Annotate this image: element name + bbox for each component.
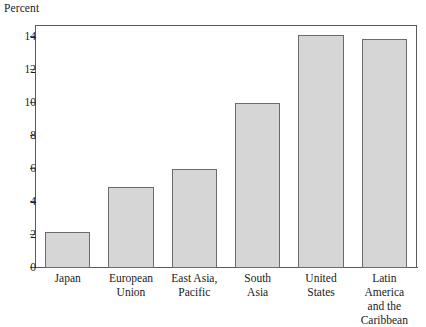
x-axis-category-label-line: Latin: [353, 271, 416, 285]
y-axis-tick-label: 8: [10, 129, 36, 141]
x-axis-category-label: East Asia,Pacific: [163, 271, 226, 299]
bar: [362, 39, 408, 268]
y-axis-title: Percent: [4, 2, 39, 15]
y-axis-tick-label: 10: [10, 96, 36, 108]
y-axis-tick: 4: [0, 201, 36, 202]
y-axis-tick-label: 4: [10, 195, 36, 207]
x-axis-category-label-line: East Asia,: [163, 271, 226, 285]
bar: [235, 103, 281, 268]
y-axis-tick: 8: [0, 135, 36, 136]
y-axis-tick: 0: [0, 267, 36, 268]
x-axis-category-label: LatinAmericaand theCaribbean: [353, 271, 416, 327]
bars-group: [36, 26, 416, 268]
x-axis-category-label-line: Union: [99, 285, 162, 299]
x-axis-category-label-line: South: [226, 271, 289, 285]
y-axis-tick: 12: [0, 69, 36, 70]
bar: [298, 35, 344, 268]
x-axis-category-label-line: and the: [353, 299, 416, 313]
x-axis-category-label-line: States: [289, 285, 352, 299]
x-axis-category-label: Japan: [36, 271, 99, 285]
y-axis-tick: 10: [0, 102, 36, 103]
x-axis-category-label: EuropeanUnion: [99, 271, 162, 299]
y-axis-tick-label: 14: [10, 30, 36, 42]
y-axis-tick: 14: [0, 36, 36, 37]
bar: [45, 232, 91, 268]
x-axis-category-labels: JapanEuropeanUnionEast Asia,PacificSouth…: [36, 271, 416, 321]
x-axis-category-label-line: Caribbean: [353, 313, 416, 327]
x-axis-category-label-line: America: [353, 285, 416, 299]
y-axis-tick-label: 12: [10, 63, 36, 75]
y-axis-tick-label: 0: [10, 262, 36, 274]
y-axis-tick: 2: [0, 234, 36, 235]
y-axis-tick-label: 6: [10, 162, 36, 174]
x-axis-category-label-line: European: [99, 271, 162, 285]
x-axis-category-label: SouthAsia: [226, 271, 289, 299]
x-axis-category-label-line: Pacific: [163, 285, 226, 299]
x-axis-category-label-line: Asia: [226, 285, 289, 299]
x-axis-category-label-line: Japan: [36, 271, 99, 285]
y-axis-tick-label: 2: [10, 228, 36, 240]
bar: [108, 187, 154, 268]
x-axis-category-label-line: United: [289, 271, 352, 285]
y-axis-tick: 6: [0, 168, 36, 169]
bar: [172, 169, 218, 268]
x-axis-category-label: UnitedStates: [289, 271, 352, 299]
